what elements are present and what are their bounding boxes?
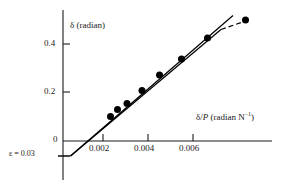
data-point xyxy=(156,72,163,79)
x-axis-title: δ/P (radian N−1) xyxy=(196,113,254,122)
data-point xyxy=(204,35,211,42)
secondary-fit-line xyxy=(71,30,222,157)
data-point-markers xyxy=(107,17,249,121)
y-tick-label-0.2: 0.2 xyxy=(44,87,55,96)
y-axis-title: δ (radian) xyxy=(70,21,105,30)
y-tick-label-0: 0 xyxy=(53,135,58,144)
y-tick-label-0.4: 0.4 xyxy=(44,39,55,48)
chart-figure: 0.4 0.2 0 0.002 0.004 0.006 δ (radian) δ… xyxy=(0,0,301,187)
data-point xyxy=(242,17,249,24)
x-tick-label-0.002: 0.002 xyxy=(89,144,109,153)
data-point xyxy=(107,113,114,120)
x-axis-title-units-close: ) xyxy=(251,112,254,122)
data-point xyxy=(124,100,131,107)
x-tick-marks xyxy=(103,134,193,141)
x-tick-label-0.006: 0.006 xyxy=(179,144,199,153)
data-point xyxy=(139,87,146,94)
y-tick-marks xyxy=(63,44,70,92)
x-axis-title-units-open: (radian N xyxy=(208,112,244,122)
axis-group xyxy=(63,10,272,180)
intercept-annotation: ε = 0.03 xyxy=(9,150,35,158)
x-tick-label-0.004: 0.004 xyxy=(134,144,154,153)
fit-lines xyxy=(71,16,246,157)
data-point xyxy=(178,56,185,63)
data-point xyxy=(114,106,121,113)
